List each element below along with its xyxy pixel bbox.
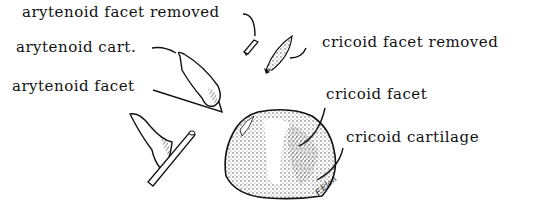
anatomy-illustration: F.Elon <box>0 0 535 214</box>
arytenoid-cartilage-upper <box>179 52 221 106</box>
arytenoid-facet-removed-piece <box>244 40 258 56</box>
cricoid-facet-removed-piece <box>264 36 292 74</box>
arytenoid-with-rod <box>130 114 195 186</box>
cricoid-cartilage-shape: F.Elon <box>225 110 338 199</box>
leader-arytenoid-cart <box>152 48 176 53</box>
leader-cricoid-facet-removed <box>290 48 306 58</box>
leader-arytenoid-facet-removed <box>243 14 255 36</box>
